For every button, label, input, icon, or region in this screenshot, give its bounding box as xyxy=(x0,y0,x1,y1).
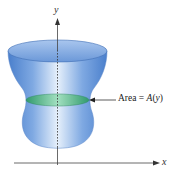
solid-diagram: y x Area = A(y) xyxy=(0,0,172,174)
x-axis xyxy=(14,161,160,166)
area-annotation: Area = A(y) xyxy=(118,93,163,103)
y-axis-label: y xyxy=(54,4,58,15)
y-axis-arrow-icon xyxy=(55,18,60,25)
diagram-canvas xyxy=(0,0,172,174)
x-axis-label: x xyxy=(162,156,166,167)
x-axis-arrow-icon xyxy=(153,161,160,166)
area-pointer xyxy=(89,98,116,103)
area-prefix: Area = xyxy=(118,93,147,103)
area-close-paren: ) xyxy=(160,93,163,103)
